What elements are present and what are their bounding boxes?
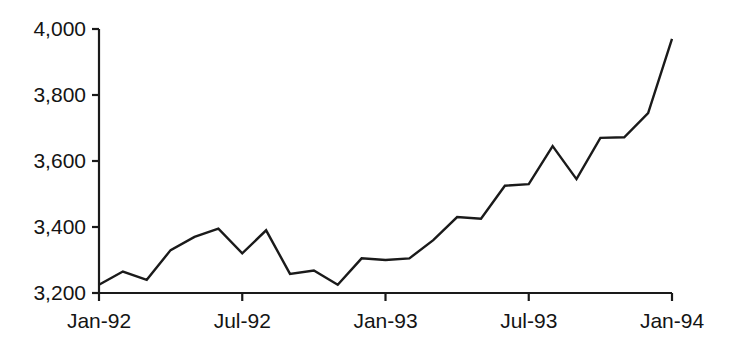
x-axis-tick-label: Jan-93	[326, 310, 446, 331]
data-series-line	[99, 39, 672, 285]
y-axis-tick-label: 3,600	[33, 150, 86, 171]
x-axis-tick-label: Jul-93	[469, 310, 589, 331]
line-chart: 3,2003,4003,6003,8004,000 Jan-92Jul-92Ja…	[0, 0, 734, 354]
y-axis-tick-label: 3,400	[33, 216, 86, 237]
x-axis-tick-label: Jan-92	[39, 310, 159, 331]
x-axis-tick-label: Jan-94	[612, 310, 732, 331]
x-axis-ticks	[99, 293, 672, 301]
y-axis-tick-label: 3,200	[33, 282, 86, 303]
y-axis-tick-label: 4,000	[33, 18, 86, 39]
x-axis-tick-label: Jul-92	[182, 310, 302, 331]
y-axis-tick-label: 3,800	[33, 84, 86, 105]
chart-canvas	[0, 0, 734, 354]
